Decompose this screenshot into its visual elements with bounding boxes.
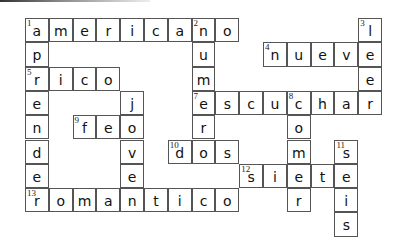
crossword-cell[interactable]: m — [287, 140, 311, 164]
crossword-cell[interactable]: a — [96, 188, 120, 212]
crossword-cell[interactable]: s — [215, 91, 239, 115]
crossword-cell[interactable]: a — [334, 91, 358, 115]
crossword-cell[interactable]: e — [334, 164, 358, 188]
crossword-cell[interactable]: t — [311, 164, 335, 188]
crossword-cell[interactable]: 2n — [192, 18, 216, 42]
crossword-cell[interactable]: u — [287, 42, 311, 66]
cell-letter: r — [26, 72, 48, 88]
crossword-cell[interactable]: a — [168, 18, 192, 42]
crossword-cell[interactable]: u — [263, 91, 287, 115]
crossword-cell[interactable]: 11s — [334, 140, 358, 164]
crossword-cell[interactable]: e — [311, 42, 335, 66]
crossword-cell[interactable]: c — [239, 91, 263, 115]
cell-letter: e — [74, 23, 96, 39]
crossword-cell[interactable]: 7e — [192, 91, 216, 115]
crossword-cell[interactable]: o — [215, 188, 239, 212]
crossword-cell[interactable]: s — [334, 212, 358, 236]
cell-letter: j — [121, 96, 143, 112]
cell-letter: o — [193, 145, 215, 161]
cell-letter: r — [193, 120, 215, 136]
cell-letter: s — [216, 96, 238, 112]
crossword-cell[interactable]: e — [25, 91, 49, 115]
crossword-cell[interactable]: v — [334, 42, 358, 66]
cell-letter: o — [121, 120, 143, 136]
cell-letter: n — [193, 23, 215, 39]
crossword-cell[interactable]: r — [192, 115, 216, 139]
cell-letter: m — [74, 193, 96, 209]
cell-letter: s — [335, 145, 357, 161]
crossword-cell[interactable]: e — [120, 164, 144, 188]
cell-letter: e — [97, 120, 119, 136]
crossword-cell[interactable]: 13r — [25, 188, 49, 212]
crossword-cell[interactable]: c — [73, 67, 97, 91]
cell-letter: e — [26, 96, 48, 112]
cell-letter: i — [335, 193, 357, 209]
cell-letter: f — [74, 120, 96, 136]
crossword-cell[interactable]: o — [287, 115, 311, 139]
crossword-cell[interactable]: 10d — [168, 140, 192, 164]
crossword-cell[interactable]: n — [120, 188, 144, 212]
crossword-cell[interactable]: r — [358, 91, 382, 115]
crossword-cell[interactable]: e — [287, 164, 311, 188]
crossword-cell[interactable]: e — [96, 115, 120, 139]
crossword-cell[interactable]: s — [215, 140, 239, 164]
cell-letter: e — [121, 169, 143, 185]
crossword-cell[interactable]: r — [96, 18, 120, 42]
cell-letter: i — [169, 193, 191, 209]
crossword-cell[interactable]: o — [215, 18, 239, 42]
crossword-cell[interactable]: c — [192, 188, 216, 212]
crossword-cell[interactable]: o — [120, 115, 144, 139]
crossword-cell[interactable]: p — [25, 42, 49, 66]
cell-letter: u — [264, 96, 286, 112]
crossword-cell[interactable]: j — [120, 91, 144, 115]
crossword-cell[interactable]: o — [49, 188, 73, 212]
cell-letter: a — [335, 96, 357, 112]
cell-letter: c — [193, 193, 215, 209]
crossword-cell[interactable]: i — [334, 188, 358, 212]
crossword-cell[interactable]: o — [192, 140, 216, 164]
crossword-cell[interactable]: 3l — [358, 18, 382, 42]
crossword-cell[interactable]: n — [25, 115, 49, 139]
crossword-cell[interactable]: 4n — [263, 42, 287, 66]
crossword-cell[interactable]: i — [120, 18, 144, 42]
cell-letter: o — [50, 193, 72, 209]
crossword-cell[interactable]: h — [311, 91, 335, 115]
cell-letter: i — [50, 72, 72, 88]
cell-letter: a — [26, 23, 48, 39]
crossword-cell[interactable]: m — [49, 18, 73, 42]
crossword-cell[interactable]: t — [144, 188, 168, 212]
crossword-cell[interactable]: c — [144, 18, 168, 42]
cell-letter: o — [288, 120, 310, 136]
crossword-cell[interactable]: e — [25, 164, 49, 188]
cell-letter: u — [193, 47, 215, 63]
crossword-cell[interactable]: d — [25, 140, 49, 164]
cell-letter: m — [50, 23, 72, 39]
crossword-cell[interactable]: 5r — [25, 67, 49, 91]
cell-letter: o — [97, 72, 119, 88]
crossword-cell[interactable]: i — [263, 164, 287, 188]
crossword-cell[interactable]: e — [73, 18, 97, 42]
crossword-cell[interactable]: i — [49, 67, 73, 91]
cell-letter: v — [335, 47, 357, 63]
cell-letter: e — [359, 47, 381, 63]
crossword-cell[interactable]: v — [120, 140, 144, 164]
crossword-cell[interactable]: o — [96, 67, 120, 91]
crossword-cell[interactable]: 8c — [287, 91, 311, 115]
crossword-cell[interactable]: 1a — [25, 18, 49, 42]
crossword-cell[interactable]: e — [358, 42, 382, 66]
cell-letter: a — [97, 193, 119, 209]
crossword-cell[interactable]: m — [192, 67, 216, 91]
crossword-cell[interactable]: r — [287, 188, 311, 212]
top-edge-bar — [0, 0, 150, 2]
crossword-cell[interactable]: 9f — [73, 115, 97, 139]
cell-letter: c — [240, 96, 262, 112]
cell-letter: s — [335, 217, 357, 233]
cell-letter: r — [26, 193, 48, 209]
cell-letter: p — [26, 47, 48, 63]
crossword-cell[interactable]: m — [73, 188, 97, 212]
crossword-cell[interactable]: 12s — [239, 164, 263, 188]
crossword-cell[interactable]: u — [192, 42, 216, 66]
crossword-cell[interactable]: i — [168, 188, 192, 212]
cell-letter: m — [288, 145, 310, 161]
crossword-cell[interactable]: e — [358, 67, 382, 91]
